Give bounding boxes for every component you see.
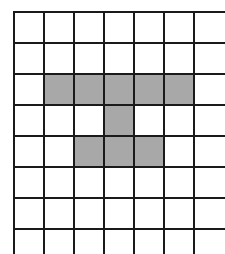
- grid-horizontal-line: [13, 104, 225, 106]
- grid-vertical-line: [103, 11, 105, 254]
- grid-horizontal-line: [13, 166, 225, 168]
- grid-vertical-line: [73, 11, 75, 254]
- grid-horizontal-line: [13, 42, 225, 44]
- shaded-cell: [74, 136, 104, 167]
- shaded-cell: [164, 74, 194, 105]
- grid-horizontal-line: [13, 11, 225, 13]
- shaded-cell: [104, 136, 134, 167]
- grid-vertical-line: [193, 11, 195, 254]
- shaded-cell: [74, 74, 104, 105]
- grid-vertical-line: [133, 11, 135, 254]
- shaded-cell: [104, 105, 134, 136]
- grid-vertical-line: [13, 11, 15, 254]
- shaded-grid-diagram: [0, 0, 225, 254]
- shaded-cell: [104, 74, 134, 105]
- grid-horizontal-line: [13, 135, 225, 137]
- grid-horizontal-line: [13, 73, 225, 75]
- shaded-cell: [44, 74, 74, 105]
- shaded-cell: [134, 136, 164, 167]
- grid-vertical-line: [43, 11, 45, 254]
- shaded-cell: [134, 74, 164, 105]
- grid-horizontal-line: [13, 228, 225, 230]
- grid-vertical-line: [163, 11, 165, 254]
- grid-horizontal-line: [13, 197, 225, 199]
